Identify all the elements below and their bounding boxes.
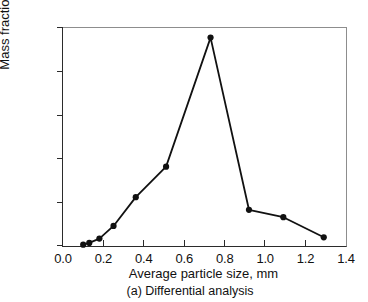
x-axis-tick-label: 0.2 xyxy=(83,252,123,265)
data-point-marker xyxy=(207,34,213,40)
x-axis-tick-label: 1.4 xyxy=(326,252,366,265)
data-point-marker xyxy=(96,235,102,241)
x-axis-tick xyxy=(305,240,306,246)
x-axis-tick xyxy=(224,240,225,246)
x-axis-tick xyxy=(103,240,104,246)
x-axis-tick xyxy=(264,240,265,246)
y-axis-title: Mass fraction xyxy=(0,0,11,96)
data-point-marker xyxy=(280,214,286,220)
y-axis-tick xyxy=(57,158,63,159)
x-axis-tick-label: 1.2 xyxy=(286,252,326,265)
data-point-marker xyxy=(86,240,92,246)
chart-figure: 0.00.10.20.30.40.50.00.20.40.60.81.01.21… xyxy=(0,0,368,302)
x-axis-tick-label: 0.6 xyxy=(164,252,204,265)
y-axis-tick xyxy=(57,202,63,203)
data-point-marker xyxy=(80,242,86,248)
x-axis-tick xyxy=(184,240,185,246)
data-series-line xyxy=(63,28,346,246)
data-point-marker xyxy=(133,194,139,200)
x-axis-tick-label: 0.4 xyxy=(124,252,164,265)
x-axis-title: Average particle size, mm xyxy=(62,267,345,281)
data-point-marker xyxy=(321,234,327,240)
y-axis-tick xyxy=(57,27,63,28)
x-axis-tick-label: 0.0 xyxy=(43,252,83,265)
x-axis-tick-label: 1.0 xyxy=(245,252,285,265)
x-axis-tick xyxy=(143,240,144,246)
figure-caption: (a) Differential analysis xyxy=(40,285,340,298)
data-point-marker xyxy=(110,223,116,229)
data-point-marker xyxy=(163,164,169,170)
series-polyline xyxy=(83,38,324,245)
x-axis-tick-label: 0.8 xyxy=(205,252,245,265)
y-axis-tick xyxy=(57,71,63,72)
plot-area: 0.00.10.20.30.40.50.00.20.40.60.81.01.21… xyxy=(62,27,347,247)
y-axis-tick xyxy=(57,245,63,246)
y-axis-tick xyxy=(57,115,63,116)
data-point-marker xyxy=(246,207,252,213)
